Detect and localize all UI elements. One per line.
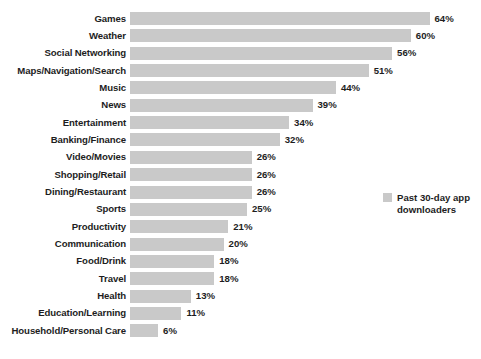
category-label: News: [101, 100, 126, 110]
bar: [130, 29, 411, 42]
bar-track: 64%: [130, 12, 481, 25]
bar-track: 18%: [130, 272, 481, 285]
bar: [130, 12, 430, 25]
bar-row: Entertainment34%: [0, 116, 481, 129]
bar-value-label: 18%: [219, 257, 238, 267]
category-label: Games: [95, 14, 127, 24]
category-label: Weather: [89, 31, 126, 41]
bar-row: News39%: [0, 99, 481, 112]
category-label: Food/Drink: [76, 257, 126, 267]
category-label: Dining/Restaurant: [45, 187, 126, 197]
bar-value-label: 39%: [318, 100, 337, 110]
bar-track: 60%: [130, 29, 481, 42]
bar: [130, 64, 369, 77]
bar-row: Education/Learning11%: [0, 307, 481, 320]
bar-value-label: 20%: [229, 239, 248, 249]
bar-value-label: 18%: [219, 274, 238, 284]
bar-value-label: 60%: [416, 31, 435, 41]
bar-value-label: 21%: [233, 222, 252, 232]
bar: [130, 203, 247, 216]
bar-row: Travel18%: [0, 272, 481, 285]
category-label: Social Networking: [45, 48, 126, 58]
category-label: Music: [99, 83, 126, 93]
bar-row: Video/Movies26%: [0, 151, 481, 164]
bar-row: Music44%: [0, 81, 481, 94]
chart-legend: Past 30-day app downloaders: [383, 192, 479, 215]
bar-row: Food/Drink18%: [0, 255, 481, 268]
bar: [130, 324, 158, 337]
category-label: Education/Learning: [38, 309, 126, 319]
bar: [130, 116, 289, 129]
bar-track: 11%: [130, 307, 481, 320]
bar-track: 20%: [130, 238, 481, 251]
bar: [130, 47, 392, 60]
bar-track: 44%: [130, 81, 481, 94]
bar-track: 51%: [130, 64, 481, 77]
bar-track: 18%: [130, 255, 481, 268]
bar-value-label: 32%: [285, 135, 304, 145]
bar-value-label: 11%: [186, 309, 205, 319]
bar-value-label: 44%: [341, 83, 360, 93]
bar: [130, 238, 224, 251]
bar-track: 13%: [130, 290, 481, 303]
category-label: Shopping/Retail: [54, 170, 126, 180]
bar: [130, 81, 336, 94]
bar-row: Shopping/Retail26%: [0, 168, 481, 181]
bar: [130, 220, 228, 233]
bar-value-label: 13%: [196, 291, 215, 301]
bar-row: Productivity21%: [0, 220, 481, 233]
bar-track: 26%: [130, 168, 481, 181]
category-label: Entertainment: [63, 118, 126, 128]
bar-value-label: 56%: [397, 48, 416, 58]
bar: [130, 151, 252, 164]
bar-track: 26%: [130, 151, 481, 164]
bar-value-label: 51%: [374, 66, 393, 76]
bar: [130, 168, 252, 181]
category-label: Household/Personal Care: [12, 326, 126, 336]
bar-row: Games64%: [0, 12, 481, 25]
bar: [130, 272, 214, 285]
bar-row: Social Networking56%: [0, 47, 481, 60]
bar: [130, 307, 181, 320]
category-label: Travel: [99, 274, 126, 284]
bar-track: 6%: [130, 324, 481, 337]
bar-track: 56%: [130, 47, 481, 60]
bar-value-label: 26%: [257, 153, 276, 163]
bar-row: Maps/Navigation/Search51%: [0, 64, 481, 77]
legend-label: Past 30-day app downloaders: [397, 192, 479, 215]
bar-value-label: 26%: [257, 170, 276, 180]
category-label: Productivity: [72, 222, 126, 232]
bar: [130, 133, 280, 146]
bar-value-label: 64%: [435, 14, 454, 24]
bar-row: Weather60%: [0, 29, 481, 42]
chart-plot-area: Games64%Weather60%Social Networking56%Ma…: [0, 0, 481, 359]
bar-value-label: 26%: [257, 187, 276, 197]
bar: [130, 255, 214, 268]
bar-row: Health13%: [0, 290, 481, 303]
bar-row: Household/Personal Care6%: [0, 324, 481, 337]
category-label: Sports: [96, 205, 126, 215]
bar-row: Banking/Finance32%: [0, 133, 481, 146]
bar-value-label: 6%: [163, 326, 177, 336]
bar: [130, 290, 191, 303]
bar-value-label: 25%: [252, 205, 271, 215]
bar-track: 39%: [130, 99, 481, 112]
category-label: Video/Movies: [66, 153, 126, 163]
bar-row: Communication20%: [0, 238, 481, 251]
bar-track: 21%: [130, 220, 481, 233]
category-label: Health: [97, 291, 126, 301]
bar-track: 32%: [130, 133, 481, 146]
bar: [130, 186, 252, 199]
category-label: Banking/Finance: [51, 135, 126, 145]
bar-chart: Games64%Weather60%Social Networking56%Ma…: [0, 0, 481, 359]
bar: [130, 99, 313, 112]
legend-swatch-icon: [383, 193, 392, 202]
bar-track: 34%: [130, 116, 481, 129]
category-label: Maps/Navigation/Search: [17, 66, 126, 76]
bar-value-label: 34%: [294, 118, 313, 128]
category-label: Communication: [55, 239, 126, 249]
